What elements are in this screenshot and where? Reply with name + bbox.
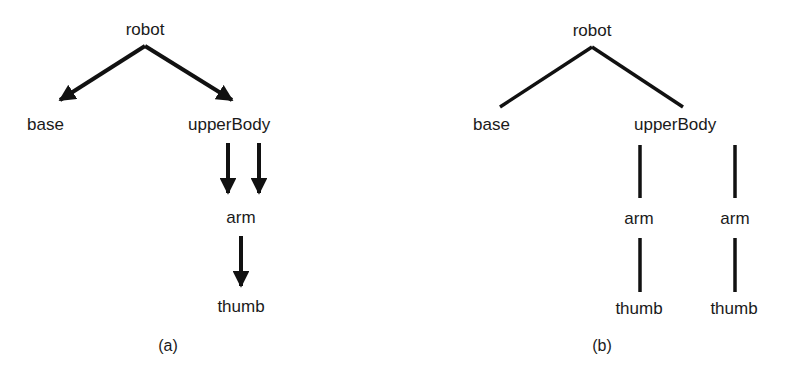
node-thumb-right: thumb <box>710 299 757 318</box>
node-base: base <box>27 115 64 134</box>
caption-b: (b) <box>592 337 612 354</box>
node-upperbody: upperBody <box>188 115 271 134</box>
node-arm-right: arm <box>720 209 749 228</box>
node-robot: robot <box>573 21 612 40</box>
caption-a: (a) <box>158 337 178 354</box>
edge-robot-upperbody-arrow <box>145 46 232 100</box>
edge-robot-upperbody <box>592 47 683 107</box>
edge-robot-base <box>500 47 592 107</box>
edge-robot-base-arrow <box>60 46 145 100</box>
scene-graph-figure: robot base upperBody arm thumb (a) robot… <box>0 0 789 371</box>
node-robot: robot <box>126 20 165 39</box>
node-thumb-left: thumb <box>615 299 662 318</box>
diagram-b: robot base upperBody arm arm thumb thumb… <box>473 21 758 354</box>
node-arm: arm <box>226 208 255 227</box>
node-upperbody: upperBody <box>634 115 717 134</box>
node-base: base <box>473 115 510 134</box>
diagram-a: robot base upperBody arm thumb (a) <box>27 20 271 354</box>
node-thumb: thumb <box>217 297 264 316</box>
node-arm-left: arm <box>624 209 653 228</box>
